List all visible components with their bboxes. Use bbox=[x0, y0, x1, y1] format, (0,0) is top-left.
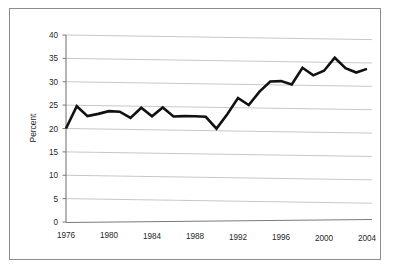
x-tick-label-1992: 1992 bbox=[229, 233, 248, 242]
line-chart: 0510152025303540 19761980198419881992199… bbox=[0, 0, 396, 272]
gridline-20 bbox=[66, 129, 372, 134]
x-axis-tick-labels: 19761980198419881992199620002004 bbox=[57, 231, 377, 243]
gridline-15 bbox=[66, 152, 372, 157]
data-series-line bbox=[66, 58, 367, 129]
x-axis-line bbox=[66, 220, 372, 223]
gridline-10 bbox=[66, 175, 372, 180]
gridline-35 bbox=[66, 58, 372, 63]
x-tick-label-1980: 1980 bbox=[100, 231, 119, 240]
gridlines bbox=[66, 35, 372, 203]
x-tick-label-1988: 1988 bbox=[186, 232, 205, 241]
x-tick-label-1976: 1976 bbox=[57, 231, 76, 240]
y-tick-label-10: 10 bbox=[49, 171, 59, 180]
x-tick-label-1996: 1996 bbox=[272, 233, 291, 242]
gridline-30 bbox=[66, 82, 372, 87]
y-axis-title: Percent bbox=[28, 113, 38, 143]
gridline-5 bbox=[66, 199, 372, 204]
y-tick-label-30: 30 bbox=[49, 78, 59, 87]
gridline-40 bbox=[66, 35, 372, 40]
gridline-25 bbox=[66, 105, 372, 110]
y-tick-label-5: 5 bbox=[53, 195, 58, 204]
y-axis-tick-labels: 0510152025303540 bbox=[49, 31, 59, 227]
x-tick-label-2004: 2004 bbox=[358, 234, 377, 243]
x-tick-label-1984: 1984 bbox=[143, 232, 162, 241]
y-tick-label-40: 40 bbox=[49, 31, 59, 40]
figure-root: 0510152025303540 19761980198419881992199… bbox=[0, 0, 396, 272]
y-tick-label-25: 25 bbox=[49, 101, 59, 110]
y-tick-label-15: 15 bbox=[49, 148, 59, 157]
y-tick-label-35: 35 bbox=[49, 54, 59, 63]
y-tick-label-20: 20 bbox=[49, 125, 59, 134]
x-tick-label-2000: 2000 bbox=[315, 234, 334, 243]
y-tick-label-0: 0 bbox=[53, 218, 58, 227]
plot-wrapper: 0510152025303540 19761980198419881992199… bbox=[0, 0, 396, 272]
